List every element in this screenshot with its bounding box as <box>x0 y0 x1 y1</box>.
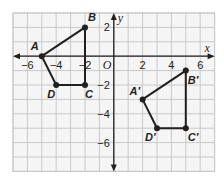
vertex-label: A <box>30 40 39 52</box>
vertex-label: B′ <box>188 74 200 86</box>
coordinate-plane: xy O−6−4−22462−2−4−6 ABCD A′B′C′D′ <box>0 0 224 182</box>
vertex-label: D <box>47 88 55 100</box>
vertex-point <box>82 24 88 30</box>
x-tick-label: −6 <box>21 59 34 71</box>
x-tick-label: −4 <box>50 59 63 71</box>
x-tick-label: 2 <box>140 59 146 71</box>
y-tick-label: −6 <box>97 137 110 149</box>
x-tick-label: 6 <box>197 59 203 71</box>
x-tick-label: 4 <box>168 59 174 71</box>
vertex-label: A′ <box>129 85 142 97</box>
vertex-point <box>39 53 45 59</box>
y-tick-label: 2 <box>104 21 110 33</box>
vertex-point <box>140 96 146 102</box>
vertex-label: C′ <box>188 131 200 143</box>
y-tick-label: −4 <box>97 108 110 120</box>
vertex-label: B <box>88 11 96 23</box>
origin-label: O <box>103 58 112 72</box>
y-axis-label: y <box>117 11 124 25</box>
vertex-label: C <box>85 88 94 100</box>
y-tick-label: −2 <box>97 79 110 91</box>
x-axis-label: x <box>204 41 211 55</box>
vertex-label: D′ <box>145 131 157 143</box>
